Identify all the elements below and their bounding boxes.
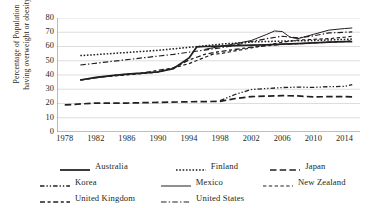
plot-area	[57, 18, 360, 132]
x-tick-label: 1978	[56, 135, 73, 143]
legend-label: Australia	[95, 161, 128, 171]
y-tick-label: 20	[28, 99, 54, 107]
y-tick-label: 80	[28, 14, 54, 22]
chart-legend: AustraliaFinlandJapanKoreaMexicoNew Zeal…	[40, 158, 365, 206]
chart-svg	[57, 18, 360, 132]
x-tick-label: 2002	[243, 135, 260, 143]
x-tick-label: 1982	[87, 135, 104, 143]
x-axis-tick-labels: 1978198219861990199419982002200620102014	[57, 135, 360, 149]
y-tick-label: 40	[28, 71, 54, 79]
y-tick-label: 30	[28, 85, 54, 93]
legend-swatch-line-icon	[40, 193, 70, 203]
legend-item-japan[interactable]: Japan	[270, 158, 325, 174]
legend-swatch-line-icon	[161, 193, 191, 203]
legend-label: United States	[196, 193, 244, 203]
legend-label: United Kingdom	[75, 193, 135, 203]
legend-label: Japan	[305, 161, 325, 171]
x-tick-label: 1998	[212, 135, 229, 143]
legend-item-australia[interactable]: Australia	[60, 158, 128, 174]
legend-item-finland[interactable]: Finland	[176, 158, 238, 174]
legend-label: Finland	[211, 161, 238, 171]
x-tick-label: 2010	[305, 135, 322, 143]
legend-row: AustraliaFinlandJapan	[40, 158, 365, 174]
y-axis-title-line1: Percentage of Population	[12, 5, 22, 84]
legend-label: Korea	[75, 177, 97, 187]
legend-row: United KingdomUnited States	[40, 190, 365, 206]
legend-label: Mexico	[196, 177, 223, 187]
y-tick-label: 0	[28, 128, 54, 136]
series-line-united-states	[80, 32, 352, 65]
x-tick-label: 1994	[180, 135, 197, 143]
legend-item-united-kingdom[interactable]: United Kingdom	[40, 190, 135, 206]
chart-figure: Percentage of Population having overweig…	[0, 0, 371, 208]
legend-swatch-line-icon	[263, 177, 293, 187]
legend-row: KoreaMexicoNew Zealand	[40, 174, 365, 190]
y-tick-label: 10	[28, 114, 54, 122]
legend-swatch-line-icon	[270, 161, 300, 171]
x-tick-label: 1990	[149, 135, 166, 143]
x-tick-label: 1986	[118, 135, 135, 143]
y-axis-tick-labels: 01020304050607080	[26, 18, 54, 132]
legend-item-mexico[interactable]: Mexico	[161, 174, 223, 190]
legend-swatch-line-icon	[40, 177, 70, 187]
legend-item-united-states[interactable]: United States	[161, 190, 244, 206]
legend-swatch-line-icon	[60, 161, 90, 171]
legend-item-korea[interactable]: Korea	[40, 174, 97, 190]
x-tick-label: 2006	[274, 135, 291, 143]
legend-label: New Zealand	[298, 177, 346, 187]
y-tick-label: 70	[28, 28, 54, 36]
legend-swatch-line-icon	[176, 161, 206, 171]
legend-swatch-line-icon	[161, 177, 191, 187]
legend-item-new-zealand[interactable]: New Zealand	[263, 174, 346, 190]
x-tick-label: 2014	[336, 135, 353, 143]
y-tick-label: 60	[28, 42, 54, 50]
y-tick-label: 50	[28, 57, 54, 65]
